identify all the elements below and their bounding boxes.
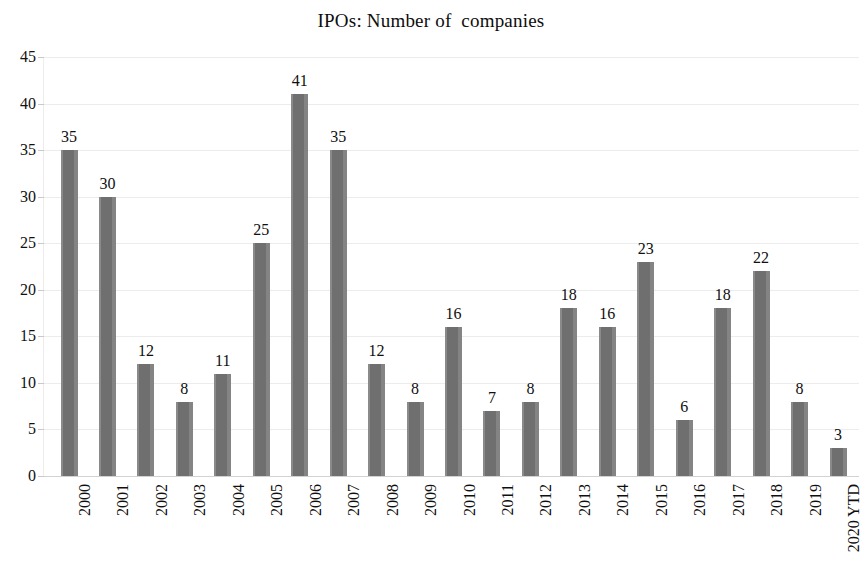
- x-axis-label: 2008: [385, 484, 401, 584]
- y-axis-label: 25: [2, 235, 36, 251]
- x-axis-label: 2006: [308, 484, 324, 584]
- x-axis-label: 2014: [615, 484, 631, 584]
- bar-value-label: 8: [392, 381, 438, 397]
- bar[interactable]: [753, 271, 770, 476]
- bar[interactable]: [791, 402, 808, 476]
- bar-value-label: 18: [700, 287, 746, 303]
- y-axis-label: 40: [2, 96, 36, 112]
- bar[interactable]: [676, 420, 693, 476]
- y-tick-mark: [38, 243, 44, 244]
- y-tick-mark: [38, 197, 44, 198]
- bar-value-label: 35: [46, 129, 92, 145]
- bar-value-label: 18: [546, 287, 592, 303]
- x-axis-label: 2002: [154, 484, 170, 584]
- bar[interactable]: [99, 197, 116, 476]
- y-tick-mark: [38, 150, 44, 151]
- bar[interactable]: [330, 150, 347, 476]
- y-axis-label: 0: [2, 468, 36, 484]
- x-axis-label: 2000: [77, 484, 93, 584]
- y-tick-mark: [38, 429, 44, 430]
- axis-baseline: [43, 476, 859, 477]
- x-axis-label: 2018: [769, 484, 785, 584]
- bar[interactable]: [637, 262, 654, 476]
- gridline: [43, 243, 859, 244]
- bar-value-label: 35: [315, 129, 361, 145]
- bar[interactable]: [253, 243, 270, 476]
- bar[interactable]: [599, 327, 616, 476]
- x-axis-label: 2012: [538, 484, 554, 584]
- bar[interactable]: [407, 402, 424, 476]
- gridline: [43, 57, 859, 58]
- bar-value-label: 8: [507, 381, 553, 397]
- gridline: [43, 150, 859, 151]
- x-axis-label: 2003: [192, 484, 208, 584]
- bar-chart: IPOs: Number of companies 45403530252015…: [0, 0, 862, 584]
- bar-value-label: 12: [354, 343, 400, 359]
- y-axis-label: 15: [2, 328, 36, 344]
- y-tick-mark: [38, 336, 44, 337]
- bar-value-label: 16: [431, 306, 477, 322]
- x-axis-label: 2016: [692, 484, 708, 584]
- bar[interactable]: [830, 448, 847, 476]
- x-axis-label: 2007: [346, 484, 362, 584]
- y-axis-label: 10: [2, 375, 36, 391]
- x-axis-label: 2004: [231, 484, 247, 584]
- x-axis-label: 2013: [577, 484, 593, 584]
- chart-title: IPOs: Number of companies: [0, 10, 862, 32]
- x-axis-label: 2020 YTD: [846, 484, 862, 584]
- y-axis-label: 35: [2, 142, 36, 158]
- y-axis-tick-labels: 454035302520151050: [0, 0, 36, 584]
- gridline: [43, 104, 859, 105]
- bar-value-label: 25: [238, 222, 284, 238]
- bar-value-label: 12: [123, 343, 169, 359]
- bar[interactable]: [445, 327, 462, 476]
- bar[interactable]: [483, 411, 500, 476]
- bar-value-label: 41: [277, 73, 323, 89]
- bar[interactable]: [176, 402, 193, 476]
- bar[interactable]: [137, 364, 154, 476]
- x-axis-label: 2017: [731, 484, 747, 584]
- bar-value-label: 8: [777, 381, 823, 397]
- bar[interactable]: [214, 374, 231, 476]
- y-axis-label: 5: [2, 421, 36, 437]
- bar-value-label: 30: [84, 176, 130, 192]
- x-axis-label: 2011: [500, 484, 516, 584]
- bar[interactable]: [291, 94, 308, 476]
- x-axis-label: 2010: [462, 484, 478, 584]
- bar-value-label: 11: [200, 353, 246, 369]
- bar-value-label: 16: [584, 306, 630, 322]
- bar-value-label: 8: [161, 381, 207, 397]
- y-tick-mark: [38, 290, 44, 291]
- x-axis-label: 2009: [423, 484, 439, 584]
- gridline: [43, 197, 859, 198]
- y-tick-mark: [38, 383, 44, 384]
- x-axis-label: 2001: [115, 484, 131, 584]
- bar[interactable]: [522, 402, 539, 476]
- x-axis-label: 2015: [654, 484, 670, 584]
- bar[interactable]: [61, 150, 78, 476]
- bar[interactable]: [714, 308, 731, 476]
- bar-value-label: 22: [738, 250, 784, 266]
- y-axis-label: 30: [2, 189, 36, 205]
- y-tick-mark: [38, 476, 44, 477]
- x-axis-label: 2005: [269, 484, 285, 584]
- y-axis-label: 20: [2, 282, 36, 298]
- bar[interactable]: [560, 308, 577, 476]
- y-tick-mark: [38, 57, 44, 58]
- y-axis-label: 45: [2, 49, 36, 65]
- bar-value-label: 6: [661, 399, 707, 415]
- bar-value-label: 23: [623, 241, 669, 257]
- plot-area: [43, 50, 859, 476]
- x-axis-label: 2019: [808, 484, 824, 584]
- bar-value-label: 3: [815, 427, 861, 443]
- y-tick-mark: [38, 104, 44, 105]
- bar[interactable]: [368, 364, 385, 476]
